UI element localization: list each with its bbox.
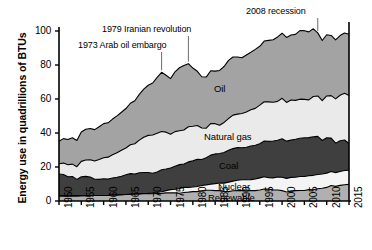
x-axis-tick-label: 1970 xyxy=(152,187,163,208)
x-axis-tick-label: 1955 xyxy=(85,187,96,208)
y-axis-tick-label: 20 xyxy=(25,161,51,172)
y-axis-tick-label: 0 xyxy=(25,195,51,206)
series-label-oil: Oil xyxy=(214,83,225,94)
x-axis-tick-label: 2005 xyxy=(308,187,319,208)
energy-use-stacked-area-chart: Energy use in quadrillions of BTUs 02040… xyxy=(0,0,372,250)
x-axis-tick-label: 1965 xyxy=(130,187,141,208)
series-label-renewable: Renewable xyxy=(208,192,255,203)
chart-plot-area xyxy=(0,0,372,250)
x-axis-tick-label: 2015 xyxy=(353,187,364,208)
x-axis-tick-label: 2000 xyxy=(286,187,297,208)
series-label-natural-gas: Natural gas xyxy=(204,131,251,142)
x-axis-tick-label: 1980 xyxy=(197,187,208,208)
y-axis-tick-label: 100 xyxy=(25,25,51,36)
x-axis-tick-label: 1960 xyxy=(108,187,119,208)
annotation-label: 1979 Iranian revolution xyxy=(102,24,191,34)
y-axis-tick-label: 60 xyxy=(25,93,51,104)
y-axis-tick-label: 40 xyxy=(25,127,51,138)
x-axis-tick-label: 1950 xyxy=(63,187,74,208)
x-axis-tick-label: 2010 xyxy=(331,187,342,208)
series-label-coal: Coal xyxy=(219,160,238,171)
series-label-nuclear: Nuclear xyxy=(218,181,250,192)
annotation-label: 2008 recession xyxy=(246,6,306,16)
x-axis-tick-label: 1995 xyxy=(264,187,275,208)
y-axis-tick-label: 80 xyxy=(25,59,51,70)
annotation-label: 1973 Arab oil embargo xyxy=(78,40,166,50)
x-axis-tick-label: 1975 xyxy=(175,187,186,208)
